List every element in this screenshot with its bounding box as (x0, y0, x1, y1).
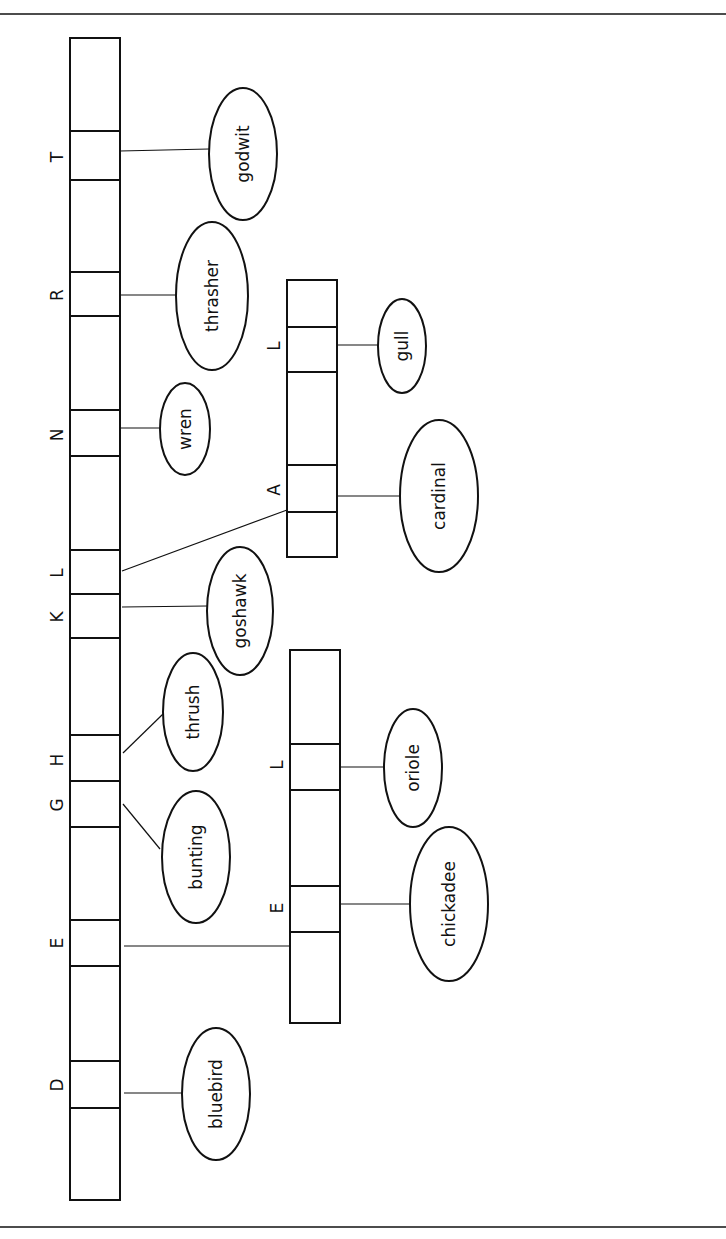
bird-name: thrush (183, 685, 203, 740)
connectors (120, 149, 410, 1093)
slot-label: K (47, 611, 67, 623)
connector-line (123, 804, 160, 849)
bird-node-thrush: thrush (163, 653, 223, 771)
slot-label: G (47, 798, 67, 811)
upper-subarray (287, 280, 337, 557)
slot-label: L (47, 568, 67, 578)
bird-name: gull (392, 330, 412, 361)
connector-line (122, 606, 207, 607)
connector-line (120, 149, 209, 151)
slot-label: R (47, 289, 67, 301)
bird-name: thrasher (202, 260, 222, 332)
bird-name: bluebird (206, 1059, 226, 1129)
bird-node-thrasher: thrasher (176, 222, 248, 370)
slot-label: D (47, 1078, 67, 1091)
slot-label: A (264, 484, 284, 496)
bird-name: goshawk (230, 573, 250, 648)
bird-node-cardinal: cardinal (400, 420, 478, 572)
bird-node-gull: gull (378, 299, 426, 393)
lower-subarray-outline (290, 650, 340, 1023)
bird-node-bluebird: bluebird (182, 1028, 250, 1160)
bird-nodes: godwitthrasherwrengoshawkthrushbuntingbl… (160, 88, 488, 1160)
slot-label: E (267, 903, 287, 914)
upper-subarray-outline (287, 280, 337, 557)
bird-node-wren: wren (160, 383, 210, 475)
slot-label: N (47, 429, 67, 442)
bird-node-chickadee: chickadee (410, 827, 488, 981)
bird-name: wren (175, 408, 195, 450)
main-array (70, 38, 120, 1200)
bird-node-bunting: bunting (162, 791, 230, 923)
main-array-outline (70, 38, 120, 1200)
slot-label: E (47, 938, 67, 949)
bird-node-godwit: godwit (209, 88, 277, 220)
slot-labels: TRNLKHGEDLALE (47, 151, 287, 1091)
connector-line (123, 714, 163, 753)
page-rules (0, 14, 726, 1227)
arrays (70, 38, 340, 1200)
bird-name: cardinal (429, 462, 449, 530)
hash-table-diagram: godwitthrasherwrengoshawkthrushbuntingbl… (0, 0, 726, 1239)
bird-node-oriole: oriole (384, 709, 442, 827)
slot-label: H (47, 754, 67, 767)
bird-name: chickadee (439, 861, 459, 947)
slot-label: T (47, 151, 67, 163)
lower-subarray (290, 650, 340, 1023)
bird-name: godwit (233, 125, 253, 183)
slot-label: L (267, 760, 287, 770)
bird-name: bunting (186, 824, 206, 889)
bird-name: oriole (403, 744, 423, 792)
slot-label: L (264, 341, 284, 351)
bird-node-goshawk: goshawk (207, 547, 273, 675)
